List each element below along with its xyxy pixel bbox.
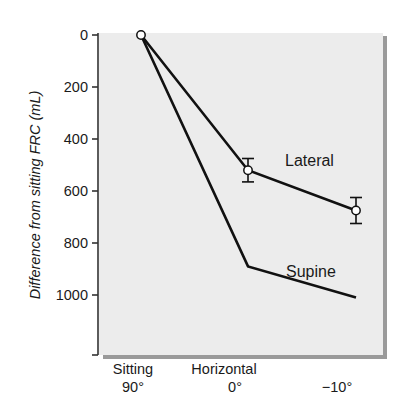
- series-label-lateral: Lateral: [285, 152, 334, 169]
- y-axis-label: Difference from sitting FRC (mL): [27, 91, 43, 300]
- series-label-supine: Supine: [286, 263, 336, 280]
- data-point-marker: [244, 166, 252, 174]
- x-label-minus10-degree: −10°: [322, 379, 352, 395]
- data-point-marker: [137, 31, 145, 39]
- y-tick-label: 600: [64, 183, 88, 199]
- x-label-sitting-degree: 90°: [122, 379, 144, 395]
- line-chart: 02004006008001000 Difference from sittin…: [0, 0, 409, 416]
- y-tick-label: 1000: [56, 287, 88, 303]
- x-label-horizontal: Horizontal: [191, 361, 256, 377]
- y-tick-label: 800: [64, 235, 88, 251]
- y-tick-label: 400: [64, 131, 88, 147]
- y-axis: 02004006008001000: [56, 27, 98, 355]
- y-tick-label: 200: [64, 79, 88, 95]
- plot-area: [99, 33, 383, 355]
- x-label-sitting: Sitting: [113, 361, 153, 377]
- y-tick-label: 0: [80, 27, 88, 43]
- x-axis-labels: Sitting 90° Horizontal 0° −10°: [113, 361, 352, 395]
- x-label-horizontal-degree: 0°: [228, 379, 242, 395]
- data-point-marker: [352, 206, 360, 214]
